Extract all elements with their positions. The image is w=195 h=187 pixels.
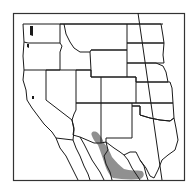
state-borders bbox=[23, 13, 178, 180]
species-range-area bbox=[91, 132, 143, 180]
puget-sound bbox=[30, 26, 33, 36]
range-map bbox=[0, 0, 195, 187]
